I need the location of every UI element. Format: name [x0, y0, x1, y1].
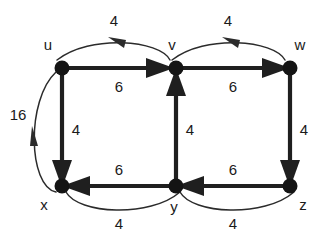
edge-y-to-x	[62, 176, 176, 196]
edge-x-to-y	[66, 192, 180, 210]
node-x[interactable]	[55, 179, 70, 194]
edge-u-to-v	[62, 58, 174, 78]
node-v[interactable]	[169, 61, 184, 76]
node-label-z: z	[299, 196, 307, 213]
edge-x-to-u	[30, 72, 56, 192]
edge-weight-y-x: 6	[115, 161, 123, 178]
edge-w-to-v-path	[172, 43, 285, 60]
edge-v-to-w	[176, 58, 290, 78]
node-label-u: u	[44, 36, 52, 53]
edge-z-to-y	[176, 176, 290, 196]
node-label-x: x	[40, 196, 48, 213]
edge-weight-w-v: 4	[224, 12, 232, 29]
node-w[interactable]	[283, 61, 298, 76]
edge-weight-v-w: 6	[229, 78, 237, 95]
edge-weight-u-v: 6	[115, 78, 123, 95]
node-z[interactable]	[283, 179, 298, 194]
edge-weight-v-u: 4	[110, 12, 118, 29]
edge-weight-x-u: 16	[10, 106, 27, 123]
node-label-w: w	[294, 36, 306, 53]
edge-weight-y-v: 4	[186, 121, 194, 138]
edge-weight-y-z: 4	[229, 215, 237, 232]
edge-y-to-v	[166, 68, 186, 186]
edge-x-to-u-path	[34, 72, 56, 192]
node-label-v: v	[168, 36, 176, 53]
node-y[interactable]	[169, 179, 184, 194]
edge-v-to-u-path	[57, 43, 170, 60]
edge-x-to-y-path	[66, 192, 180, 210]
edge-w-to-v	[172, 37, 285, 60]
node-u[interactable]	[55, 61, 70, 76]
edge-y-to-z	[180, 192, 294, 210]
edge-y-to-z-path	[180, 192, 294, 210]
edge-v-to-u	[57, 37, 170, 60]
edge-weight-w-z: 4	[300, 121, 308, 138]
edge-w-to-z	[280, 68, 300, 188]
edge-weight-x-y: 4	[115, 215, 123, 232]
edge-weight-z-y: 6	[229, 161, 237, 178]
graph-diagram-canvas: u v w x y z 6 6 4 4 4 4 4 16 6 6 4 4	[0, 0, 328, 233]
edge-weight-u-x: 4	[72, 121, 80, 138]
edge-u-to-x	[52, 68, 72, 188]
node-label-y: y	[170, 198, 178, 215]
graph-figure: u v w x y z 6 6 4 4 4 4 4 16 6 6 4 4	[0, 0, 328, 233]
